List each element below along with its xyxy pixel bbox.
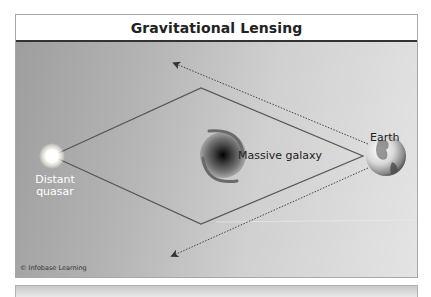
bottom-strip [15, 285, 418, 297]
quasar-label: Distant quasar [35, 174, 75, 198]
distant-quasar-icon [39, 143, 65, 169]
copyright-credit: © Infobase Learning [20, 264, 87, 272]
diagram-svg [16, 42, 417, 277]
galaxy-label: Massive galaxy [238, 150, 322, 162]
figure-frame: Gravitational Lensing [15, 14, 418, 278]
title-bar: Gravitational Lensing [16, 15, 417, 42]
figure-title: Gravitational Lensing [131, 20, 303, 36]
earth-label: Earth [370, 132, 400, 144]
diagram-panel: Distant quasar Massive galaxy Earth © In… [16, 42, 417, 277]
